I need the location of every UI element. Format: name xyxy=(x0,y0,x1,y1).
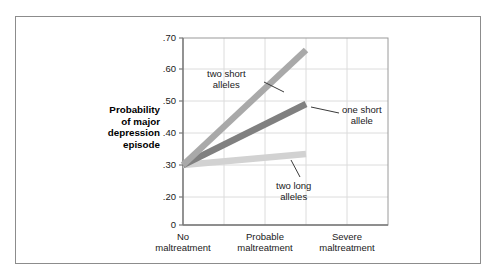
y-axis-title-line-2: of major xyxy=(72,116,160,128)
annotation-line-1: two short xyxy=(207,68,246,79)
x-tick-label-line-1: Severe xyxy=(301,231,393,242)
depression-genotype-chart: .70 .60 .50 .40 .30 .20 0 Probability of… xyxy=(0,0,495,280)
series-annotation-two-short-alleles: two short alleles xyxy=(207,68,246,90)
x-tick-label-line-2: maltreatment xyxy=(301,242,393,253)
x-tick-label-line-1: Probable xyxy=(219,231,311,242)
y-axis-title-line-4: episode xyxy=(72,139,160,151)
x-tick-label-line-2: maltreatment xyxy=(219,242,311,253)
y-tick-label-20: .20 xyxy=(148,192,176,202)
y-axis-title-line-1: Probability xyxy=(72,104,160,116)
x-tick-label-line-2: maltreatment xyxy=(137,242,229,253)
y-tick-label-30: .30 xyxy=(148,160,176,170)
y-tick-label-60: .60 xyxy=(148,64,176,74)
series-annotation-two-long-alleles: two long alleles xyxy=(276,180,311,202)
x-tick-label-no-maltreatment: No maltreatment xyxy=(137,231,229,253)
series-annotation-one-short-allele: one short allele xyxy=(342,104,382,126)
annotation-line-2: alleles xyxy=(276,191,311,202)
y-axis-title: Probability of major depression episode xyxy=(72,104,160,150)
annotation-line-2: allele xyxy=(342,115,382,126)
annotation-line-1: two long xyxy=(276,180,311,191)
x-tick-label-probable-maltreatment: Probable maltreatment xyxy=(219,231,311,253)
y-tick-label-70: .70 xyxy=(148,33,176,43)
annotation-line-2: alleles xyxy=(207,79,246,90)
x-tick-label-severe-maltreatment: Severe maltreatment xyxy=(301,231,393,253)
y-axis-title-line-3: depression xyxy=(72,127,160,139)
x-tick-label-line-1: No xyxy=(137,231,229,242)
y-tick-label-0: 0 xyxy=(148,220,176,230)
annotation-line-1: one short xyxy=(342,104,382,115)
